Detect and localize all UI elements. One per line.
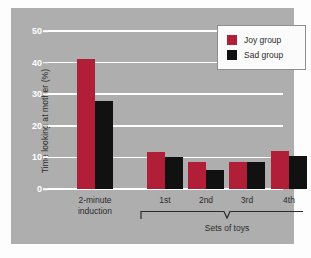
y-tick-label-50: 50	[32, 26, 42, 36]
bar-joy-group-1st	[147, 152, 165, 189]
x-tick-label-2nd: 2nd	[199, 195, 213, 206]
legend-item-joy-group: Joy group	[218, 32, 305, 47]
y-tick-label-20: 20	[32, 121, 42, 131]
y-tick-label-30: 30	[32, 89, 42, 99]
y-tick-mark-40	[43, 62, 48, 64]
bar-joy-group-2-minute-induction	[77, 59, 95, 189]
bar-sad-group-2-minute-induction	[95, 101, 113, 189]
legend-label-joy-group: Joy group	[244, 35, 281, 45]
bar-sad-group-3rd	[247, 162, 265, 189]
y-tick-mark-30	[43, 93, 48, 95]
y-tick-mark-10	[43, 157, 48, 159]
legend-label-sad-group: Sad group	[244, 50, 283, 60]
bar-sad-group-2nd	[206, 170, 224, 189]
x-tick-label-line: 1st	[159, 195, 170, 206]
y-tick-mark-20	[43, 125, 48, 127]
x-tick-label-line: 2-minute	[78, 195, 112, 206]
x-tick-label-line: 3rd	[241, 195, 253, 206]
y-tick-mark-50	[43, 30, 48, 32]
legend-swatch-joy-group	[227, 35, 237, 45]
x-tick-label-line: 4th	[283, 195, 295, 206]
y-tick-label-0: 0	[37, 184, 42, 194]
chart-legend: Joy group Sad group	[217, 25, 306, 70]
legend-item-sad-group: Sad group	[218, 47, 305, 62]
bracket-path	[141, 212, 303, 220]
y-tick-label-10: 10	[32, 152, 42, 162]
chart-panel: Time looking at mother (%) 010203040502-…	[11, 8, 294, 244]
bar-joy-group-3rd	[229, 162, 247, 189]
y-tick-label-40: 40	[32, 58, 42, 68]
x-tick-label-line: induction	[78, 206, 112, 217]
x-axis-title: Sets of toys	[205, 223, 249, 233]
x-tick-label-4th: 4th	[283, 195, 295, 206]
x-tick-label-2-minute-induction: 2-minuteinduction	[78, 195, 112, 217]
bar-sad-group-1st	[165, 157, 183, 189]
bar-joy-group-2nd	[188, 162, 206, 189]
x-tick-label-line: 2nd	[199, 195, 213, 206]
bar-sad-group-4th	[289, 156, 307, 189]
bar-joy-group-4th	[271, 151, 289, 189]
x-tick-label-3rd: 3rd	[241, 195, 253, 206]
x-tick-label-1st: 1st	[159, 195, 170, 206]
y-tick-mark-0	[43, 188, 48, 190]
legend-swatch-sad-group	[227, 50, 237, 60]
chart-figure: Time looking at mother (%) 010203040502-…	[0, 0, 311, 258]
